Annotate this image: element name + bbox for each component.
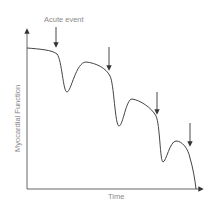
disease-progression-diagram: Acute event Time Myocardial Function (0, 0, 214, 217)
myocardial-function-curve (27, 48, 196, 189)
y-axis-label: Myocardial Function (13, 85, 22, 152)
acute-event-label: Acute event (44, 15, 85, 24)
x-axis-label: Time (108, 192, 124, 201)
